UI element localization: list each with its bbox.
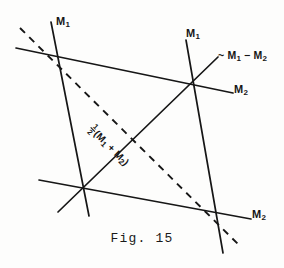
line-group-solid [16, 22, 251, 253]
m2-upper-shallow-line [16, 48, 233, 93]
label-m2-bottom-right: M2 [252, 209, 266, 222]
label-m1-top-left: M1 [56, 16, 70, 29]
midpoint-diagonal-line [58, 57, 218, 212]
figure-15-diagram: M1 M1 ~ M1 − M2 M2 M2 12(M1 + M2) Fig. 1… [0, 0, 284, 268]
line-group-dashed [20, 28, 241, 247]
label-m2-right: M2 [234, 84, 248, 97]
diagram-canvas [0, 0, 284, 268]
m1-right-steep-line [186, 40, 223, 253]
label-m1-minus-m2: ~ M1 − M2 [218, 50, 267, 63]
label-m1-top-right: M1 [186, 28, 200, 41]
difference-diagonal-dashed-line [20, 28, 241, 247]
figure-caption: Fig. 15 [0, 231, 284, 246]
